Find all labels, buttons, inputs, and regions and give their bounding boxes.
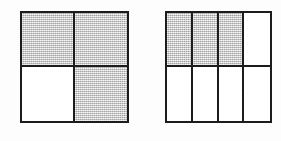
cell-bottom-3 [219,67,245,121]
cell-top-1 [167,13,193,67]
cell-bottom-2 [193,67,219,121]
cell-bottom-left [22,67,75,121]
cell-bottom-1 [167,67,193,121]
cell-top-3 [219,13,245,67]
cell-top-4 [244,13,270,67]
right-square-fraction-model [165,11,272,123]
cell-bottom-right [75,67,128,121]
cell-top-2 [193,13,219,67]
cell-top-right [75,13,128,67]
left-square-fraction-model [20,11,129,123]
cell-top-left [22,13,75,67]
cell-bottom-4 [244,67,270,121]
